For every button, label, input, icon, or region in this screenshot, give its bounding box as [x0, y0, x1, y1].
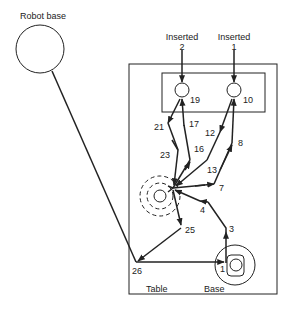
- table-label: Table: [146, 284, 168, 294]
- insert-fixture: [162, 73, 265, 112]
- point-8: 8: [238, 138, 243, 148]
- robot-path-diagram: [0, 0, 281, 309]
- inserted-2-number: 2: [179, 42, 184, 52]
- inserted-1-label: Inserted: [218, 32, 251, 42]
- table-part: [154, 190, 166, 202]
- base-part: [230, 259, 242, 271]
- point-17: 17: [189, 119, 199, 129]
- work-cell-outline: [129, 64, 277, 294]
- hole-19: [175, 83, 189, 97]
- point-26: 26: [132, 266, 142, 276]
- hole-10: [227, 83, 241, 97]
- point-19: 19: [190, 95, 200, 105]
- robot-base-label: Robot base: [20, 11, 66, 21]
- point-1: 1: [220, 264, 225, 274]
- point-13: 13: [207, 165, 217, 175]
- point-21: 21: [154, 122, 164, 132]
- point-12: 12: [205, 128, 215, 138]
- point-7: 7: [219, 183, 224, 193]
- point-10: 10: [243, 95, 253, 105]
- robot-base-circle: [16, 25, 64, 73]
- inserted-2-label: Inserted: [166, 32, 199, 42]
- point-25: 25: [185, 225, 195, 235]
- inserted-1-number: 1: [231, 42, 236, 52]
- point-4: 4: [200, 205, 205, 215]
- point-23: 23: [160, 150, 170, 160]
- point-16: 16: [194, 144, 204, 154]
- point-3: 3: [229, 224, 234, 234]
- base-label: Base: [204, 284, 225, 294]
